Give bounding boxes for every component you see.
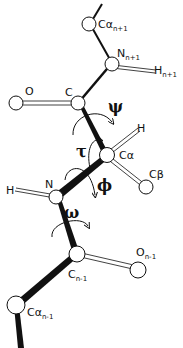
atom-o-nm1: [130, 262, 146, 278]
svg-text:Nn+1: Nn+1: [117, 47, 140, 62]
atom-ca-nm1: [7, 296, 25, 314]
svg-text:Cβ: Cβ: [149, 168, 164, 181]
svg-text:Cα: Cα: [119, 149, 134, 162]
psi-label: ψ: [108, 97, 123, 116]
svg-text:Cαn+1: Cαn+1: [98, 18, 128, 33]
atom-c-nm1: [69, 246, 85, 262]
svg-text:Cn-1: Cn-1: [68, 268, 87, 283]
atom-ca: [100, 148, 115, 163]
svg-text:On-1: On-1: [136, 246, 156, 261]
atom-ca-np1: [82, 17, 96, 31]
atom-n: [49, 190, 63, 204]
peptide-diagram: Cαn+1 Nn+1 Hn+1 O C H Cα Cβ H N Cn-1 On-…: [0, 0, 183, 348]
tau-label: τ: [76, 142, 87, 161]
svg-text:Hn+1: Hn+1: [154, 64, 177, 79]
svg-text:H: H: [137, 122, 145, 135]
phi-label: ϕ: [97, 176, 112, 195]
svg-text:Cαn-1: Cαn-1: [27, 306, 53, 321]
omega-label: ω: [64, 203, 79, 222]
atom-o: [9, 96, 23, 110]
svg-text:N: N: [45, 178, 53, 191]
svg-text:H: H: [6, 184, 14, 197]
svg-text:O: O: [25, 85, 34, 98]
atom-cb: [139, 180, 153, 194]
atom-c: [71, 96, 85, 110]
svg-text:C: C: [65, 86, 73, 99]
